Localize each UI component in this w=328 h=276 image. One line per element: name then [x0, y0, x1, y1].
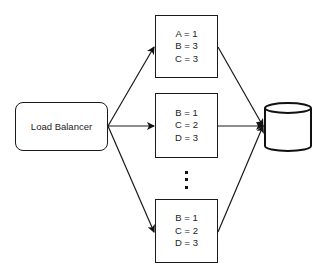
server-1-line-1: A = 1	[176, 28, 198, 41]
ellipsis-dot	[185, 171, 188, 174]
server-3-line-3: D = 3	[175, 237, 198, 250]
load-balancer-label: Load Balancer	[31, 121, 92, 132]
server-2-line-2: C = 2	[175, 119, 198, 132]
load-balancer-node: Load Balancer	[15, 102, 108, 151]
server-1-line-3: C = 3	[175, 53, 198, 66]
server-1-line-2: B = 3	[175, 40, 197, 53]
server-node-2: B = 1 C = 2 D = 3	[155, 93, 218, 158]
arrow-lb-to-server-3	[108, 126, 154, 232]
server-node-3: B = 1 C = 2 D = 3	[155, 199, 218, 263]
ellipsis-dot	[185, 186, 188, 189]
server-2-line-1: B = 1	[175, 107, 197, 120]
database-cylinder-icon	[265, 103, 311, 151]
server-node-1: A = 1 B = 3 C = 3	[155, 15, 218, 78]
server-3-line-2: C = 2	[175, 225, 198, 238]
arrow-lb-to-server-1	[108, 47, 154, 126]
server-3-line-1: B = 1	[175, 212, 197, 225]
ellipsis-dot	[185, 178, 188, 181]
arrow-server-3-to-db	[218, 126, 263, 232]
arrow-server-1-to-db	[218, 47, 263, 126]
server-2-line-3: D = 3	[175, 132, 198, 145]
